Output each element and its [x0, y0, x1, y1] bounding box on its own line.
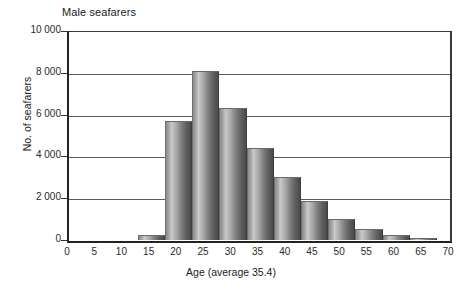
- x-tick-label: 25: [188, 246, 218, 257]
- y-tick-mark: [61, 240, 67, 241]
- x-tick-label: 45: [297, 246, 327, 257]
- x-axis-title: Age (average 35.4): [0, 266, 462, 278]
- y-tick-mark: [61, 156, 67, 157]
- y-tick-label: 8 000: [1, 66, 61, 77]
- y-tick-mark: [61, 198, 67, 199]
- x-tick-label: 0: [52, 246, 82, 257]
- chart-container: Male seafarers No. of seafarers 02 0004 …: [0, 0, 462, 291]
- y-tick-label: 4 000: [1, 149, 61, 160]
- gridline-4000: [69, 157, 450, 158]
- y-tick-label: 6 000: [1, 108, 61, 119]
- gridline-2000: [69, 199, 450, 200]
- y-tick-label: 10 000: [1, 24, 61, 35]
- x-tick-label: 10: [106, 246, 136, 257]
- x-tick-label: 65: [406, 246, 436, 257]
- chart-title: Male seafarers: [62, 6, 136, 18]
- y-tick-mark: [61, 31, 67, 32]
- gridline-8000: [69, 74, 450, 75]
- x-tick-label: 55: [351, 246, 381, 257]
- y-tick-mark: [61, 73, 67, 74]
- x-tick-label: 40: [270, 246, 300, 257]
- x-tick-label: 50: [324, 246, 354, 257]
- y-tick-mark: [61, 115, 67, 116]
- gridline-6000: [69, 116, 450, 117]
- x-tick-label: 30: [215, 246, 245, 257]
- y-tick-label: 2 000: [1, 191, 61, 202]
- plot-area: [67, 31, 452, 243]
- x-tick-label: 35: [243, 246, 273, 257]
- x-tick-label: 5: [79, 246, 109, 257]
- x-tick-label: 70: [433, 246, 462, 257]
- x-tick-label: 20: [161, 246, 191, 257]
- x-tick-label: 15: [134, 246, 164, 257]
- x-tick-label: 60: [379, 246, 409, 257]
- y-tick-label: 0: [1, 233, 61, 244]
